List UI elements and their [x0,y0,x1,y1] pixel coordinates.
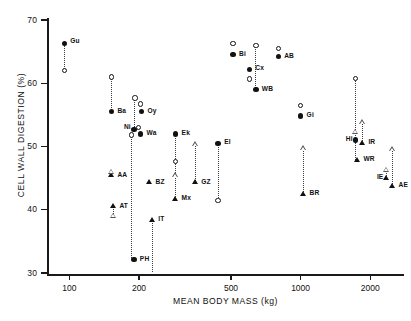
x-tick-2000 [370,275,371,280]
data-point-AT [110,203,116,208]
data-point-Wa [138,131,143,136]
data-point-PH [131,257,136,262]
data-point-Ek [173,131,178,136]
y-tick-60 [41,83,47,84]
data-point [109,74,114,79]
x-tick-label-2000: 2000 [350,283,390,293]
data-point [253,43,258,48]
point-label-Ba: Ba [117,107,126,114]
connector-line [131,134,132,260]
data-point [359,119,365,124]
point-label-BZ: BZ [155,178,164,185]
data-point [136,125,141,130]
data-point [383,167,389,172]
data-point [215,198,220,203]
data-point [138,101,143,106]
data-point-El [215,141,220,146]
y-tick-30 [41,272,47,273]
data-point [247,76,252,81]
y-tick-label-70: 70 [15,15,37,25]
data-point-Ba [109,109,114,114]
data-point-WB [253,87,258,92]
point-label-AT: AT [119,202,128,209]
data-point [110,213,116,218]
data-point [129,132,134,137]
data-point [132,95,137,100]
point-label-Bi: Bi [239,50,246,57]
point-label-Gu: Gu [70,37,79,44]
data-point-Gi [298,113,303,118]
connector-line [152,220,153,272]
data-point-WR [354,157,360,162]
connector-line [195,145,196,183]
point-label-AE: AE [399,181,408,188]
x-tick-label-100: 100 [49,283,89,293]
point-label-IT: IT [158,215,164,222]
data-point-GZ [192,179,198,184]
data-point [276,46,281,51]
data-point-Bi [230,52,235,57]
x-tick-label-1000: 1000 [281,283,321,293]
data-point [298,103,303,108]
x-tick-label-500: 500 [211,283,251,293]
x-tick-200 [138,275,139,280]
data-point-BR [300,191,306,196]
connector-line [175,134,176,199]
connector-line [64,43,65,70]
point-label-BR: BR [310,189,320,196]
data-point [352,129,358,134]
data-point-Cx [247,67,252,72]
data-point-Oy [139,109,144,114]
y-tick-label-50: 50 [15,141,37,151]
point-label-WR: WR [363,155,374,162]
data-point-IR [359,140,365,145]
connector-line [218,143,219,200]
y-tick-50 [41,146,47,147]
data-point-BZ [146,179,152,184]
data-point-AB [276,54,281,59]
y-tick-label-40: 40 [15,204,37,214]
x-axis-title: MEAN BODY MASS (kg) [47,296,404,306]
data-point [108,169,114,174]
point-label-IE: IE [377,173,384,180]
point-label-GZ: GZ [201,178,210,185]
data-point-Gu [62,41,67,46]
connector-line [134,98,135,130]
point-label-Oy: Oy [147,107,156,114]
point-label-Ek: Ek [182,129,190,136]
point-label-IR: IR [368,138,375,145]
connector-line [303,148,304,194]
point-label-AB: AB [284,52,294,59]
connector-line [355,78,356,160]
scatter-chart: CELL WALL DIGESTION (%) MEAN BODY MASS (… [0,0,411,321]
point-label-WB: WB [262,85,273,92]
point-label-Hi: Hi [346,135,353,142]
y-tick-label-30: 30 [15,268,37,278]
data-point [172,172,178,177]
data-point [353,76,358,81]
data-point-Hi [353,137,358,142]
y-tick-label-60: 60 [15,78,37,88]
data-point-AE [389,183,395,188]
data-point-Mx [172,196,178,201]
point-label-El: El [224,138,231,145]
x-tick-label-200: 200 [119,283,159,293]
point-label-Cx: Cx [255,64,264,71]
y-axis-line [47,18,49,275]
point-label-Wa: Wa [147,129,157,136]
data-point [62,68,67,73]
data-point [173,159,178,164]
data-point [389,146,395,151]
connector-line [392,150,393,187]
data-point [230,41,235,46]
data-point [192,141,198,146]
x-tick-100 [69,275,70,280]
y-tick-40 [41,209,47,210]
point-label-Mx: Mx [182,194,191,201]
data-point [300,145,306,150]
y-tick-70 [41,19,47,20]
data-point-IT [149,217,155,222]
connector-line [111,77,112,112]
data-point-IE [383,175,389,180]
x-tick-500 [230,275,231,280]
